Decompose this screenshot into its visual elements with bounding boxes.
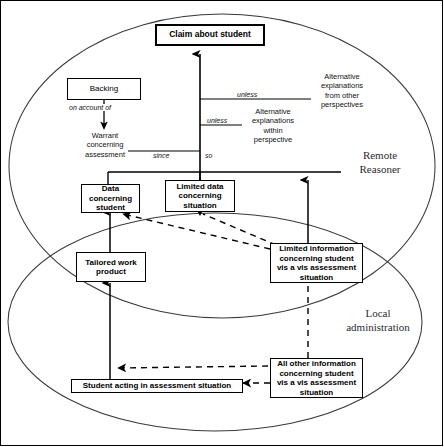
node-label-line: vis a vis assessment — [277, 378, 356, 388]
node-label-line: situation — [183, 201, 216, 211]
node-label-line: concerning student — [279, 254, 353, 264]
node-tailored-work-product[interactable]: Tailored work product — [76, 252, 146, 282]
text-line: explanations — [240, 116, 306, 125]
text-alternative-explanations-within-perspective: Alternative explanations within perspect… — [240, 107, 306, 144]
node-label: Backing — [90, 84, 118, 94]
text-line: Alternative — [306, 72, 378, 81]
region-label-line: Reasoner — [340, 162, 420, 176]
edge-label-so: so — [204, 152, 213, 159]
node-claim-about-student[interactable]: Claim about student — [155, 24, 265, 46]
text-line: concerning — [72, 140, 138, 149]
node-student-acting-in-assessment-situation[interactable]: Student acting in assessment situation — [71, 379, 243, 393]
region-label-local-administration: Local administration — [328, 306, 428, 334]
node-label-line: concerning — [89, 194, 132, 204]
region-label-line: Remote — [340, 148, 420, 162]
node-label-line: Tailored work — [85, 258, 136, 268]
node-label-line: situation — [300, 388, 333, 398]
node-label-line: All other information — [277, 359, 356, 369]
node-label-line: vis a vis assessment — [277, 263, 356, 273]
text-line: from other — [306, 91, 378, 100]
edge-label-unless-outer: unless — [236, 91, 258, 98]
region-label-line: administration — [328, 320, 428, 334]
node-label-line: Limited data — [176, 182, 223, 192]
node-data-concerning-student[interactable]: Data concerning student — [81, 184, 140, 213]
region-label-remote-reasoner: Remote Reasoner — [340, 148, 420, 176]
text-line: within — [240, 126, 306, 135]
edge-label-on-account-of: on account of — [68, 104, 112, 111]
node-label-line: situation — [300, 273, 333, 283]
text-alternative-explanations-other-perspectives: Alternative explanations from other pers… — [306, 72, 378, 109]
diagram-canvas: Claim about student Backing Data concern… — [0, 0, 444, 447]
text-line: explanations — [306, 81, 378, 90]
node-backing[interactable]: Backing — [67, 78, 141, 100]
region-label-line: Local — [328, 306, 428, 320]
text-line: Alternative — [240, 107, 306, 116]
node-label-line: Data — [102, 184, 119, 194]
text-line: assessment — [72, 150, 138, 159]
node-label: Claim about student — [169, 30, 251, 40]
text-line: perspective — [240, 135, 306, 144]
node-all-other-information[interactable]: All other information concerning student… — [270, 358, 363, 398]
node-label-line: product — [96, 267, 126, 277]
node-label-line: student — [96, 203, 125, 213]
node-label-line: concerning student — [279, 369, 353, 379]
node-label-line: concerning — [178, 191, 221, 201]
edge-label-since: since — [152, 152, 170, 159]
text-line: perspectives — [306, 100, 378, 109]
text-warrant-concerning-assessment: Warrant concerning assessment — [72, 131, 138, 159]
node-limited-information[interactable]: Limited information concerning student v… — [270, 243, 363, 283]
edge-label-unless-inner: unless — [206, 117, 228, 124]
node-label: Student acting in assessment situation — [83, 381, 231, 391]
node-limited-data-concerning-situation[interactable]: Limited data concerning situation — [165, 180, 235, 212]
node-label-line: Limited information — [279, 244, 354, 254]
text-line: Warrant — [72, 131, 138, 140]
